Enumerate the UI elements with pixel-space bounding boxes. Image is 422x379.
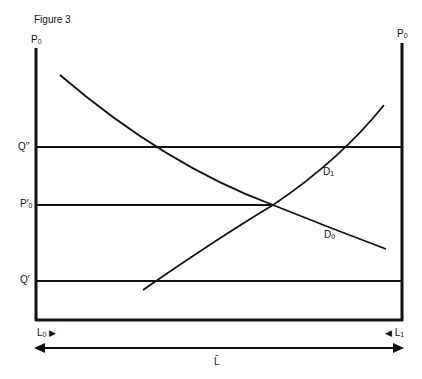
q-prime-label: Q′	[20, 275, 30, 285]
left-axis-label-main: P	[31, 34, 38, 45]
arrow-left-head-icon	[34, 343, 45, 353]
arrow-right-head-icon	[393, 343, 404, 353]
p-prime-0-sub: 0	[29, 202, 33, 209]
d0-curve	[60, 75, 386, 249]
l1-label: ◀ L1	[385, 328, 404, 338]
right-axis-label-sub: 0	[404, 32, 408, 39]
figure-title: Figure 3	[34, 15, 71, 25]
l1-sub: 1	[400, 331, 404, 338]
d1-curve	[143, 105, 384, 290]
left-triangle-icon: ◀	[385, 328, 392, 338]
p-prime-0-main: P′	[20, 198, 29, 209]
d0-curve-label: D0	[324, 230, 335, 240]
right-axis-label: P0	[397, 29, 408, 39]
left-axis-label: P0	[31, 35, 42, 45]
d1-sub: 1	[330, 170, 334, 177]
right-axis-label-main: P	[397, 28, 404, 39]
left-axis-label-sub: 0	[38, 38, 42, 45]
q-double-prime-label: Q′′	[18, 142, 30, 152]
d1-curve-label: D1	[323, 167, 334, 177]
l-bar-label: L̄	[214, 357, 220, 367]
diagram-canvas	[0, 0, 422, 379]
d0-sub: 0	[331, 233, 335, 240]
right-triangle-icon: ▶	[49, 328, 56, 338]
p-prime-0-label: P′0	[20, 199, 32, 209]
l0-sub: 0	[43, 331, 47, 338]
l0-label: L0 ▶	[37, 328, 56, 338]
